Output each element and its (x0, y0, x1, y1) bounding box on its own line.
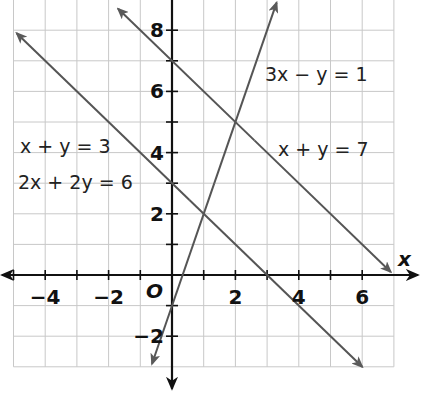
line-x-y-7 (118, 9, 254, 141)
equation-label-x-plus-y-eq-3: x + y = 3 (20, 135, 111, 157)
y-tick-label: −2 (133, 324, 164, 348)
x-tick-label: 6 (355, 285, 369, 309)
coordinate-plane: −4−2246−22468 x O 3x − y = 1 x + y = 7 x… (0, 0, 422, 398)
x-tick-label: −4 (30, 285, 61, 309)
x-axis-label: x (397, 247, 412, 271)
line-x-y-3 (189, 200, 362, 367)
y-tick-label: 8 (150, 18, 164, 42)
y-tick-label: 4 (150, 141, 164, 165)
equation-label-3x-minus-y-eq-1: 3x − y = 1 (265, 63, 368, 85)
y-tick-label: 6 (150, 79, 164, 103)
equation-label-x-plus-y-eq-7: x + y = 7 (278, 138, 369, 160)
x-tick-label: 4 (292, 285, 306, 309)
x-tick-label: −2 (93, 285, 124, 309)
origin-label: O (146, 279, 163, 303)
y-tick-label: 2 (150, 202, 164, 226)
x-tick-label: 2 (228, 285, 242, 309)
equation-label-2x-plus-2y-eq-6: 2x + 2y = 6 (18, 171, 133, 193)
line-x-y-7 (254, 140, 390, 272)
